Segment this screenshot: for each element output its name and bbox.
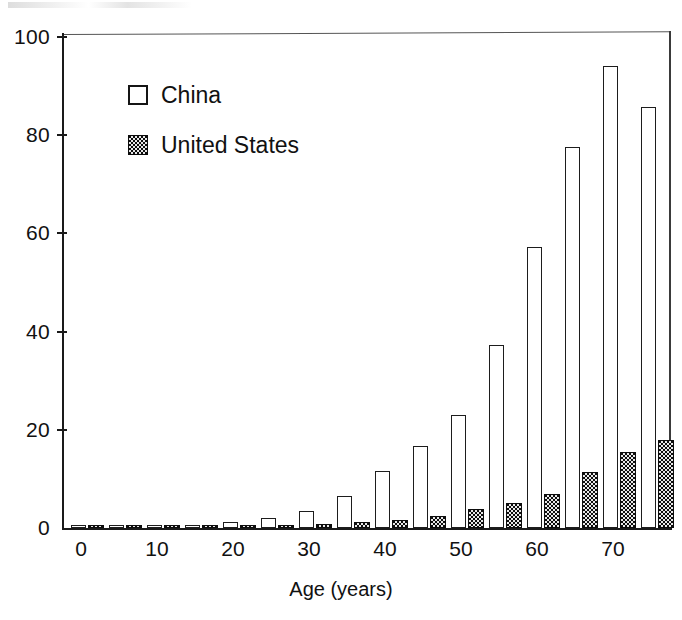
y-axis-tick-label: 0 <box>2 517 50 538</box>
bar-united-states-age-10 <box>164 525 180 528</box>
bar-united-states-age-25 <box>278 525 294 528</box>
x-axis-tick-label: 50 <box>438 538 484 559</box>
bar-china-age-15 <box>185 525 201 528</box>
bar-china-age-75 <box>641 107 657 528</box>
bar-china-age-65 <box>565 147 581 528</box>
y-axis-tick-label: 40 <box>2 321 50 342</box>
bar-united-states-age-35 <box>354 522 370 528</box>
bar-china-age-50 <box>451 415 467 528</box>
bar-china-age-5 <box>109 525 125 528</box>
y-axis-tick-label: 100 <box>2 26 50 47</box>
bar-china-age-70 <box>603 66 619 528</box>
bar-china-age-20 <box>223 522 239 528</box>
bar-china-age-55 <box>489 345 505 528</box>
bar-united-states-age-60 <box>544 494 560 528</box>
bar-united-states-age-50 <box>468 509 484 528</box>
checkered-square-swatch-icon <box>128 135 148 155</box>
x-axis-tick-label: 20 <box>210 538 256 559</box>
x-axis-tick-label: 70 <box>590 538 636 559</box>
x-axis-title: Age (years) <box>0 578 682 600</box>
scan-artifact <box>8 2 238 8</box>
bar-china-age-10 <box>147 525 163 528</box>
bar-china-age-30 <box>299 511 315 528</box>
x-axis-tick-label: 0 <box>58 538 104 559</box>
bar-united-states-age-30 <box>316 524 332 528</box>
x-axis-line <box>62 528 672 530</box>
y-axis-tick-label: 20 <box>2 419 50 440</box>
bar-united-states-age-20 <box>240 525 256 528</box>
legend-item-united-states: United States <box>128 128 299 162</box>
x-axis-tick-label: 30 <box>286 538 332 559</box>
bar-united-states-age-15 <box>202 525 218 528</box>
bar-china-age-35 <box>337 496 353 528</box>
plot-frame-top <box>62 31 670 35</box>
bar-china-age-0 <box>71 525 87 528</box>
bar-china-age-40 <box>375 471 391 528</box>
legend-item-china: China <box>128 78 299 112</box>
legend-label-united-states: United States <box>161 134 299 157</box>
legend-label-china: China <box>161 84 221 107</box>
bar-united-states-age-0 <box>88 525 104 528</box>
bar-china-age-25 <box>261 518 277 528</box>
chart-legend: China United States <box>128 78 299 178</box>
x-axis-tick-label: 40 <box>362 538 408 559</box>
bar-china-age-60 <box>527 247 543 528</box>
bar-united-states-age-5 <box>126 525 142 528</box>
y-axis-tick-label: 60 <box>2 222 50 243</box>
y-axis-tick-label: 80 <box>2 124 50 145</box>
bar-china-age-45 <box>413 446 429 528</box>
bar-united-states-age-55 <box>506 503 522 528</box>
bar-united-states-age-75 <box>658 440 674 528</box>
bar-united-states-age-65 <box>582 472 598 528</box>
open-square-swatch-icon <box>128 85 148 105</box>
x-axis-tick-label: 60 <box>514 538 560 559</box>
bar-united-states-age-45 <box>430 516 446 528</box>
x-axis-tick-label: 10 <box>134 538 180 559</box>
bar-united-states-age-40 <box>392 520 408 528</box>
bar-chart-figure: 020406080100 010203040506070 Age (years)… <box>0 0 682 620</box>
bar-united-states-age-70 <box>620 452 636 528</box>
